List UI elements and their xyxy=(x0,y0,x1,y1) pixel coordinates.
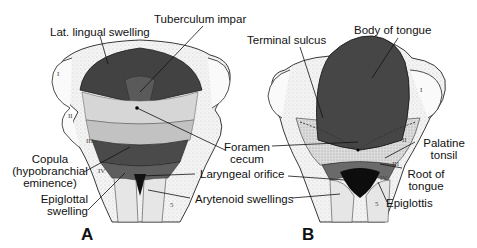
label-copula-line1: Copula xyxy=(10,153,90,165)
arytenoid-swellings-a xyxy=(114,178,138,222)
label-laryngeal-orifice: Laryngeal orifice xyxy=(200,168,284,180)
body-of-tongue xyxy=(317,36,410,150)
arch-numeral-1-b: I xyxy=(420,86,422,94)
arch-numeral-5-b: 5 xyxy=(375,200,379,208)
arch-numeral-3-a: III xyxy=(86,137,93,145)
tongue-development-figure: I II III IV 5 I II III IV 5 Lat. lingual… xyxy=(0,0,477,248)
panel-label-a: A xyxy=(81,225,93,245)
label-foramen-line1: Foramen xyxy=(222,141,272,153)
label-palatine-line2: tonsil xyxy=(418,149,470,161)
label-copula-line2: (hypobranchial xyxy=(10,165,90,177)
arch-numeral-1-a: I xyxy=(57,70,59,78)
label-arytenoid-swellings: Arytenoid swellings xyxy=(195,193,293,205)
label-epiglottal-swelling: Epiglottal swelling xyxy=(30,193,88,217)
label-copula: Copula (hypobranchial eminence) xyxy=(10,153,90,189)
label-palatine-line1: Palatine xyxy=(418,137,470,149)
label-palatine-tonsil: Palatine tonsil xyxy=(418,137,470,161)
arch-numeral-3-b: III xyxy=(392,160,399,168)
label-epiglottal-line2: swelling xyxy=(30,205,88,217)
tuberculum-impar xyxy=(125,76,155,104)
arch-numeral-4-a: IV xyxy=(98,167,105,175)
label-foramen-line2: cecum xyxy=(222,153,272,165)
label-epiglottis: Epiglottis xyxy=(386,197,433,209)
arch-numeral-2-b: II xyxy=(402,136,407,144)
label-terminal-sulcus: Terminal sulcus xyxy=(247,34,326,46)
label-root-of-tongue: Root of tongue xyxy=(402,168,450,192)
label-copula-line3: eminence) xyxy=(10,177,90,189)
label-tuberculum-impar: Tuberculum impar xyxy=(154,13,246,25)
label-body-of-tongue: Body of tongue xyxy=(354,24,431,36)
arch-numeral-5-a: 5 xyxy=(170,201,174,209)
arch-numeral-2-a: II xyxy=(68,112,73,120)
panel-label-b: B xyxy=(302,225,314,245)
label-lat-lingual-swelling: Lat. lingual swelling xyxy=(50,26,150,38)
label-foramen-cecum: Foramen cecum xyxy=(222,141,272,165)
label-root-line2: tongue xyxy=(402,180,450,192)
arch-numeral-4-b: IV xyxy=(380,174,387,182)
label-root-line1: Root of xyxy=(402,168,450,180)
label-epiglottal-line1: Epiglottal xyxy=(30,193,88,205)
panel-b-drawing xyxy=(268,36,445,222)
